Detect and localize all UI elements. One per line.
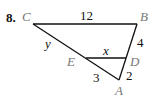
segment-label-ea: 3 — [93, 70, 100, 85]
vertex-label-a: A — [114, 83, 123, 98]
vertex-label-e: E — [66, 54, 75, 69]
segment-label-bd: 4 — [137, 35, 144, 50]
segment-label-ce: y — [43, 36, 51, 51]
vertex-label-d: D — [129, 54, 140, 69]
problem-number: 8. — [6, 10, 16, 25]
segment-label-cb: 12 — [80, 8, 93, 23]
segment-label-da: 2 — [126, 68, 133, 83]
segment-label-ed: x — [102, 43, 109, 58]
vertex-label-b: B — [140, 9, 148, 24]
vertex-label-c: C — [22, 9, 31, 24]
triangle-diagram: 8. C B A D E 12 4 2 3 y x — [0, 0, 154, 99]
